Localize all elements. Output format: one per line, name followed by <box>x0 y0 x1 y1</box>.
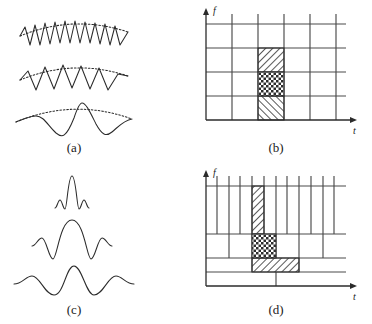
highlight-cell-top <box>258 48 284 72</box>
wavelet-wide <box>14 266 134 295</box>
waveform-high-frequency <box>20 21 128 45</box>
y-axis-arrow <box>203 8 209 15</box>
envelope-arc-low <box>16 109 132 122</box>
y-axis-label: f <box>213 167 217 178</box>
wavelet-medium <box>32 220 112 259</box>
highlight-tile-high <box>252 186 264 234</box>
envelope-arc-medium <box>20 68 128 80</box>
wave-path-low <box>16 103 132 136</box>
panel-a-caption: (a) <box>67 140 81 155</box>
highlight-tile-low <box>252 258 299 272</box>
wavelet-path-medium <box>32 220 112 259</box>
wave-path-high <box>20 21 128 45</box>
x-axis-label: t <box>353 291 356 302</box>
wavelet-path-narrow <box>55 176 89 209</box>
panel-a-waveforms: (a) <box>0 0 186 162</box>
panel-c-caption: (c) <box>67 302 81 317</box>
figure-root: (a) <box>0 0 372 324</box>
highlighted-column <box>258 48 284 120</box>
y-axis-arrow <box>203 170 209 177</box>
x-axis-arrow <box>350 283 357 289</box>
panel-b-caption: (b) <box>268 140 283 155</box>
y-axis-label: f <box>213 5 217 16</box>
x-axis-label: t <box>353 125 356 136</box>
panel-d-wavelet-tiling: f t (d) <box>186 162 372 324</box>
highlight-cell-bottom <box>258 96 284 120</box>
highlight-cell-middle <box>258 72 284 96</box>
panel-d-caption: (d) <box>268 302 283 317</box>
panel-c-wavelets: (c) <box>0 162 186 324</box>
waveform-low-frequency <box>16 103 132 136</box>
panel-b-stft-tiling: f t (b) <box>186 0 372 162</box>
wave-path-medium <box>20 65 128 90</box>
wavelet-narrow <box>55 176 89 209</box>
wavelet-path-wide <box>14 266 134 295</box>
x-axis-arrow <box>350 117 357 123</box>
high-frequency-band-divisions <box>217 176 334 234</box>
waveform-medium-frequency <box>20 65 128 90</box>
highlight-tile-mid <box>252 234 276 258</box>
